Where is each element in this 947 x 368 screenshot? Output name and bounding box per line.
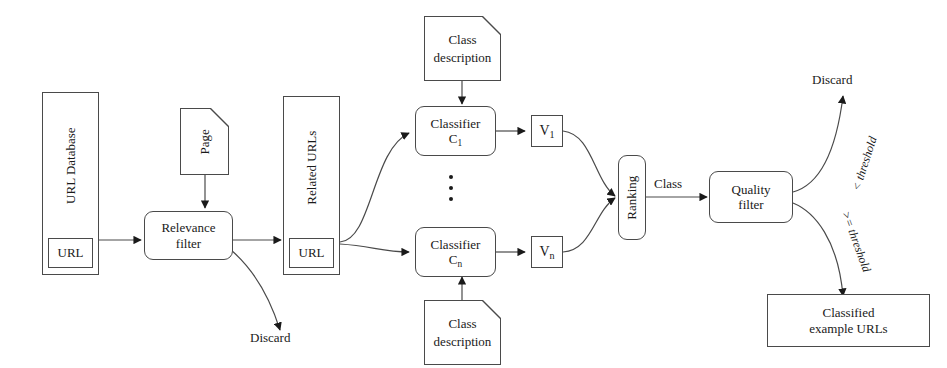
relevance-filter-line1: Relevance	[161, 220, 215, 235]
ellipsis-dot	[449, 197, 453, 201]
classifier-first-line2: C1	[449, 131, 462, 146]
node-related-urls[interactable]: Related URLs URL	[283, 96, 340, 275]
wire-vote-first-to-ranking	[563, 131, 615, 196]
vote-last-symbol: V	[539, 244, 549, 259]
related-urls-label-wrap: Related URLs	[284, 97, 339, 238]
node-vote-first[interactable]: V1	[531, 115, 563, 147]
classifier-first-line1: Classifier	[431, 116, 481, 131]
vote-last-label: Vn	[539, 244, 554, 261]
ellipsis-icon	[448, 175, 454, 201]
wire-vote-last-to-ranking	[563, 198, 615, 252]
node-classifier-last[interactable]: Classifier Cn	[415, 227, 496, 277]
class-description-bottom-line2: description	[434, 333, 492, 351]
node-quality-filter[interactable]: Quality filter	[709, 171, 793, 223]
node-ranking[interactable]: Ranking	[618, 155, 646, 240]
classifier-first-subscript: 1	[458, 138, 463, 148]
classifier-last-symbol: C	[449, 252, 458, 267]
node-classifier-first[interactable]: Classifier C1	[415, 106, 496, 156]
quality-filter-line2: filter	[738, 197, 763, 212]
classifier-last-subscript: n	[458, 259, 463, 269]
page-label: Page	[196, 129, 214, 154]
wire-relevance-to-discard	[231, 250, 280, 330]
class-description-bottom-line1: Class	[434, 315, 492, 333]
class-description-top-line2: description	[434, 49, 492, 67]
node-class-description-bottom[interactable]: Class description	[424, 300, 501, 365]
related-urls-label: Related URLs	[304, 130, 319, 204]
quality-filter-line1: Quality	[732, 182, 771, 197]
node-url-database[interactable]: URL Database URL	[42, 92, 99, 275]
url-database-label-wrap: URL Database	[43, 93, 98, 238]
vote-first-label: V1	[539, 123, 554, 140]
classifier-first-symbol: C	[449, 131, 458, 146]
related-urls-slot-label: URL	[299, 245, 325, 260]
related-urls-slot[interactable]: URL	[289, 238, 334, 268]
label-below-threshold: < threshold	[849, 135, 881, 193]
classified-urls-line2: example URLs	[809, 321, 887, 336]
node-page[interactable]: Page	[180, 108, 229, 175]
label-discard-left: Discard	[250, 330, 290, 346]
classifier-last-line1: Classifier	[431, 237, 481, 252]
class-description-top-text: Class description	[434, 31, 492, 66]
ranking-label: Ranking	[624, 175, 639, 219]
label-class: Class	[654, 176, 682, 192]
classifier-last-line2: Cn	[449, 252, 462, 267]
wire-quality-to-classified	[793, 203, 843, 296]
ellipsis-dot	[449, 175, 453, 179]
node-classified-example-urls[interactable]: Classified example URLs	[767, 294, 930, 347]
url-database-label: URL Database	[63, 127, 78, 203]
node-relevance-filter[interactable]: Relevance filter	[144, 211, 233, 260]
wire-related-to-classifier-last	[340, 244, 409, 252]
relevance-filter-line2: filter	[176, 236, 201, 251]
class-description-top-line1: Class	[434, 31, 492, 49]
node-vote-last[interactable]: Vn	[531, 236, 563, 268]
vote-last-subscript: n	[550, 250, 555, 261]
flow-diagram: URL Database URL Page Relevance filter D…	[0, 0, 947, 368]
classified-urls-line1: Classified	[823, 305, 875, 320]
label-discard-right: Discard	[812, 72, 852, 88]
node-class-description-top[interactable]: Class description	[424, 16, 501, 81]
vote-first-subscript: 1	[550, 129, 555, 140]
ellipsis-dot	[449, 186, 453, 190]
class-description-bottom-text: Class description	[434, 315, 492, 350]
url-database-slot-label: URL	[58, 245, 84, 260]
wire-quality-to-discard	[793, 96, 843, 192]
wire-related-to-classifier-first	[340, 133, 409, 242]
url-database-slot[interactable]: URL	[48, 238, 93, 268]
vote-first-symbol: V	[539, 123, 549, 138]
label-at-or-above-threshold: >= threshold	[838, 209, 874, 274]
